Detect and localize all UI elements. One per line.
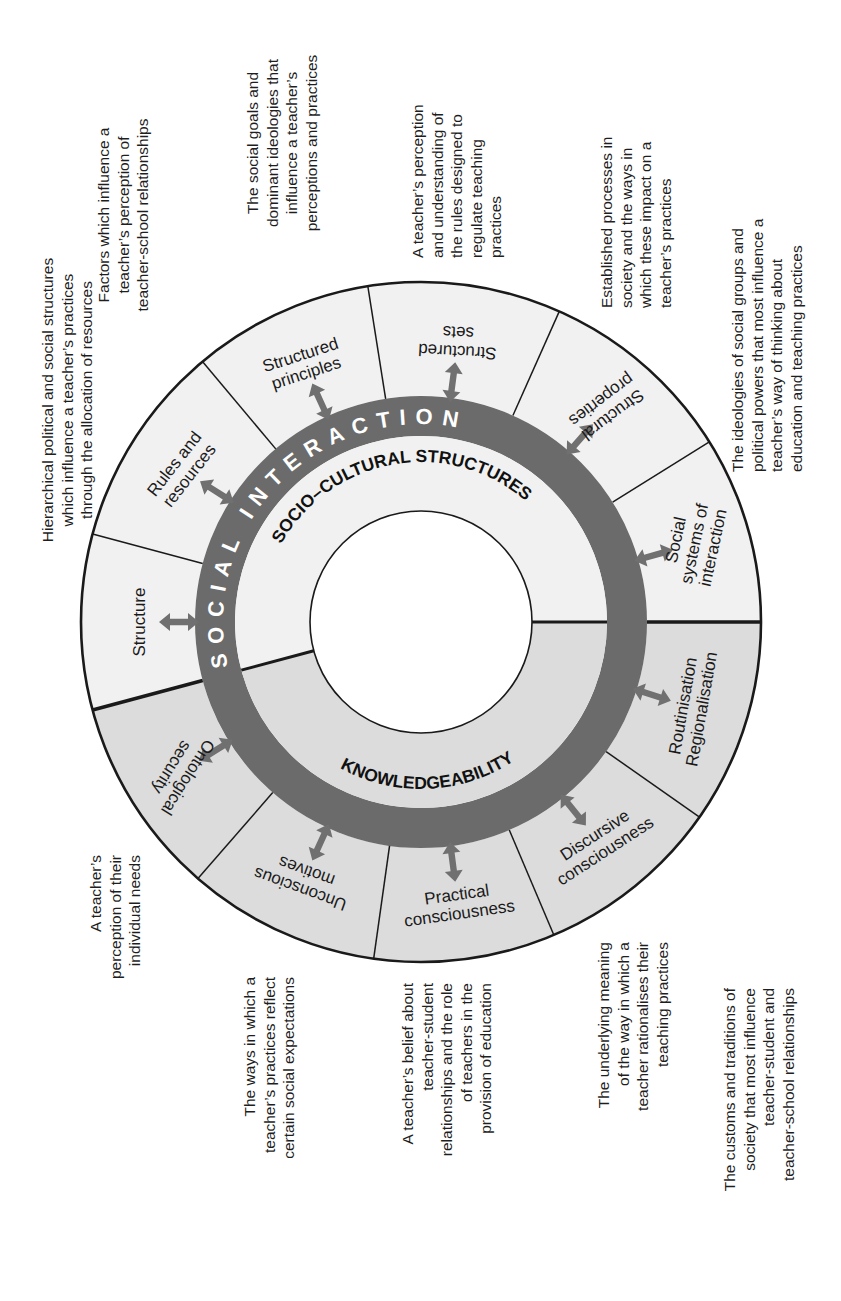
description-structural-properties: Established processes insociety and the … xyxy=(597,68,675,308)
description-social-systems-of-interaction: The ideologies of social groups andpolit… xyxy=(728,122,806,472)
description-structured-sets: A teacher’s perceptionand understanding … xyxy=(408,43,506,258)
description-line: The social goals and xyxy=(243,28,263,258)
description-line: teacher’s practices xyxy=(656,68,676,308)
description-line: practices xyxy=(486,43,506,258)
description-line: of the way in which a xyxy=(614,942,634,1162)
description-line: certain social expectations xyxy=(279,977,299,1222)
description-line: teacher’s way of thinking about xyxy=(767,122,787,472)
description-line: Established processes in xyxy=(597,68,617,308)
description-line: the rules designed to xyxy=(447,43,467,258)
description-line: Factors which influence a xyxy=(94,45,114,385)
description-line: which these impact on a xyxy=(636,68,656,308)
description-practical-consciousness: A teacher’s belief aboutteacher-studentr… xyxy=(398,983,496,1218)
description-unconscious-motives: The ways in which ateacher’s practices r… xyxy=(240,977,299,1222)
description-line: The underlying meaning xyxy=(594,942,614,1162)
description-line: dominant ideologies that xyxy=(263,28,283,258)
description-structure: Hierarchical political and social struct… xyxy=(38,150,97,650)
description-line: teacher’s perception of xyxy=(114,45,134,385)
description-line: The ways in which a xyxy=(240,977,260,1222)
description-line: political powers that most influence a xyxy=(748,122,768,472)
description-line: teacher-student xyxy=(418,983,438,1218)
description-structured-principles: The social goals anddominant ideologies … xyxy=(243,28,321,258)
description-line: society that most influence xyxy=(740,988,760,1228)
description-routinisation-regionalisation: The customs and traditions ofsociety tha… xyxy=(720,988,798,1228)
description-line: Hierarchical political and social struct… xyxy=(38,150,58,650)
description-line: of teachers in the xyxy=(457,983,477,1218)
description-line: education and teaching practices xyxy=(787,122,807,472)
description-line: which influence a teacher’s practices xyxy=(58,150,78,650)
description-line: society and the ways in xyxy=(617,68,637,308)
description-line: relationships and the role xyxy=(437,983,457,1218)
description-rules-and-resources: Factors which influence ateacher’s perce… xyxy=(94,45,153,385)
segment-label-structure: Structure xyxy=(130,588,149,657)
description-line: teacher’s practices reflect xyxy=(260,977,280,1222)
center-circle xyxy=(310,511,532,733)
description-line: The ideologies of social groups and xyxy=(728,122,748,472)
description-line: provision of education xyxy=(476,983,496,1218)
description-line: regulate teaching xyxy=(467,43,487,258)
description-line: teacher-school relationships xyxy=(133,45,153,385)
description-line: and understanding of xyxy=(428,43,448,258)
description-line: teaching practices xyxy=(653,942,673,1162)
description-line: teacher-school relationships xyxy=(779,988,799,1228)
description-line: The customs and traditions of xyxy=(720,988,740,1228)
description-ontological-security: A teacher’sperception of theirindividual… xyxy=(86,855,145,1030)
description-line: perception of their xyxy=(106,855,126,1030)
description-line: individual needs xyxy=(125,855,145,1030)
description-line: influence a teacher’s xyxy=(282,28,302,258)
description-line: teacher rationalises their xyxy=(633,942,653,1162)
description-line: A teacher’s perception xyxy=(408,43,428,258)
description-line: A teacher’s xyxy=(86,855,106,1030)
description-line: teacher-student and xyxy=(759,988,779,1228)
description-discursive-consciousness: The underlying meaningof the way in whic… xyxy=(594,942,672,1162)
description-line: perceptions and practices xyxy=(302,28,322,258)
description-line: A teacher’s belief about xyxy=(398,983,418,1218)
